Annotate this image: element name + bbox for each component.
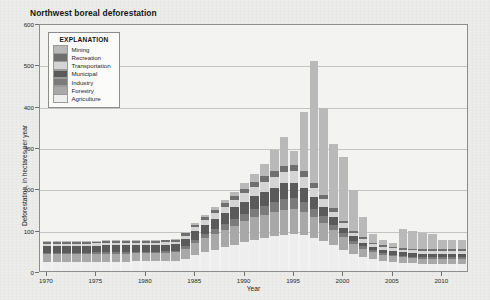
bar-segment-mining bbox=[339, 157, 348, 221]
bar-segment-municipal bbox=[142, 245, 151, 252]
bar-1982 bbox=[161, 240, 170, 271]
legend-label: Municipal bbox=[72, 70, 98, 77]
legend-item-industry: Industry bbox=[53, 78, 115, 86]
bar-segment-agriculture bbox=[260, 238, 269, 271]
bar-segment-forestry bbox=[112, 254, 121, 262]
bar-segment-transportation bbox=[221, 207, 230, 214]
bar-segment-industry bbox=[250, 209, 259, 217]
bar-segment-agriculture bbox=[359, 257, 368, 271]
bar-segment-agriculture bbox=[438, 264, 447, 271]
bar-2008 bbox=[418, 233, 427, 271]
bar-1974 bbox=[82, 241, 91, 271]
bar-segment-industry bbox=[260, 206, 269, 215]
bar-segment-municipal bbox=[260, 192, 269, 206]
bar-segment-agriculture bbox=[389, 262, 398, 271]
x-tick-label: 2005 bbox=[385, 277, 399, 284]
bar-segment-mining bbox=[369, 234, 378, 242]
bar-segment-agriculture bbox=[43, 262, 52, 271]
bar-1998 bbox=[319, 108, 328, 271]
bar-segment-municipal bbox=[82, 246, 91, 253]
legend-item-agriculture: Agriculture bbox=[53, 95, 115, 103]
bar-2002 bbox=[359, 217, 368, 271]
bar-segment-agriculture bbox=[122, 262, 131, 272]
legend-item-forestry: Forestry bbox=[53, 86, 115, 94]
bar-1970 bbox=[43, 241, 52, 271]
x-tick-label: 1980 bbox=[138, 277, 152, 284]
bar-segment-agriculture bbox=[221, 247, 230, 271]
bar-segment-forestry bbox=[151, 253, 160, 261]
y-tick-label: 100 bbox=[24, 227, 34, 234]
bar-segment-municipal bbox=[102, 245, 111, 252]
bar-segment-forestry bbox=[53, 254, 62, 261]
x-tick-label: 1970 bbox=[39, 277, 53, 284]
bar-segment-municipal bbox=[151, 245, 160, 252]
bar-segment-mining bbox=[408, 231, 417, 248]
bar-segment-forestry bbox=[142, 253, 151, 261]
bar-segment-forestry bbox=[280, 210, 289, 235]
bar-segment-agriculture bbox=[230, 245, 239, 271]
bar-segment-municipal bbox=[122, 245, 131, 252]
bar-segment-agriculture bbox=[270, 236, 279, 271]
bar-1977 bbox=[112, 240, 121, 271]
bar-segment-municipal bbox=[211, 219, 220, 229]
bar-segment-mining bbox=[290, 151, 299, 165]
bar-segment-municipal bbox=[43, 246, 52, 253]
bar-segment-transportation bbox=[310, 188, 319, 197]
bar-1991 bbox=[250, 173, 259, 271]
bar-1971 bbox=[53, 241, 62, 271]
bar-1973 bbox=[72, 241, 81, 271]
bar-segment-municipal bbox=[300, 188, 309, 202]
bar-segment-agriculture bbox=[408, 263, 417, 271]
bar-segment-forestry bbox=[161, 253, 170, 261]
y-tick-label: 0 bbox=[31, 269, 34, 276]
figure-page: Northwest boreal deforestation Deforesta… bbox=[0, 0, 490, 300]
bar-segment-agriculture bbox=[339, 250, 348, 271]
bar-segment-agriculture bbox=[250, 240, 259, 271]
x-tick-label: 1975 bbox=[88, 277, 102, 284]
bar-segment-agriculture bbox=[319, 241, 328, 271]
bar-segment-transportation bbox=[300, 177, 309, 188]
bar-segment-municipal bbox=[240, 202, 249, 214]
bar-1978 bbox=[122, 240, 131, 271]
bar-1990 bbox=[240, 183, 249, 271]
bar-segment-municipal bbox=[250, 196, 259, 209]
bar-1983 bbox=[171, 239, 180, 271]
bar-segment-industry bbox=[319, 216, 328, 223]
bar-segment-mining bbox=[359, 217, 368, 237]
bar-segment-forestry bbox=[62, 254, 71, 261]
legend-label: Industry bbox=[72, 79, 94, 86]
bar-segment-forestry bbox=[92, 254, 101, 261]
bar-1987 bbox=[211, 207, 220, 271]
y-axis: Deforestation, in hectares per year 0100… bbox=[0, 24, 39, 272]
bar-2012 bbox=[458, 240, 467, 271]
x-tick-mark bbox=[293, 272, 294, 276]
bar-segment-forestry bbox=[171, 252, 180, 260]
y-tick-label: 300 bbox=[24, 145, 34, 152]
y-tick-label: 500 bbox=[24, 62, 34, 69]
bar-2004 bbox=[379, 240, 388, 271]
bar-segment-forestry bbox=[290, 209, 299, 234]
bar-segment-municipal bbox=[230, 207, 239, 219]
legend: EXPLANATION MiningRecreationTransportati… bbox=[48, 32, 120, 108]
bar-1995 bbox=[290, 151, 299, 271]
bar-segment-forestry bbox=[201, 238, 210, 252]
page-title: Northwest boreal deforestation bbox=[30, 8, 157, 18]
bar-2006 bbox=[399, 229, 408, 271]
bar-segment-municipal bbox=[72, 246, 81, 253]
bar-segment-industry bbox=[240, 214, 249, 221]
bar-segment-municipal bbox=[201, 225, 210, 234]
bar-segment-municipal bbox=[161, 245, 170, 252]
bar-segment-forestry bbox=[270, 212, 279, 236]
bar-segment-agriculture bbox=[240, 242, 249, 271]
bar-segment-forestry bbox=[300, 212, 309, 235]
bar-segment-forestry bbox=[43, 254, 52, 261]
x-tick-label: 2000 bbox=[336, 277, 350, 284]
legend-label: Agriculture bbox=[72, 95, 101, 102]
bar-2000 bbox=[339, 157, 348, 271]
legend-item-mining: Mining bbox=[53, 46, 115, 54]
bar-segment-agriculture bbox=[62, 262, 71, 271]
bar-segment-agriculture bbox=[82, 262, 91, 271]
bar-segment-forestry bbox=[102, 254, 111, 262]
bar-segment-agriculture bbox=[72, 262, 81, 271]
x-tick-label: 1990 bbox=[237, 277, 251, 284]
